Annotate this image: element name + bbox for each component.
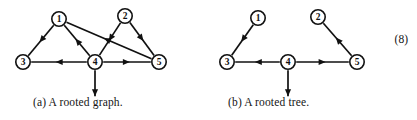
edge-4-to-5	[103, 59, 151, 65]
edge-4-to-5	[296, 59, 349, 65]
node-label-3: 3	[21, 57, 26, 67]
node-5[interactable]: 5	[152, 55, 166, 69]
edge-4-to-5-arrowhead	[123, 59, 130, 65]
node-label-3: 3	[225, 57, 230, 67]
node-3[interactable]: 3	[220, 55, 234, 69]
panel-a-rooted-graph: 12345	[16, 9, 166, 96]
node-3[interactable]: 3	[16, 55, 30, 69]
node-4[interactable]: 4	[281, 55, 295, 69]
edge-4-to-3	[235, 59, 280, 65]
caption-panel-a: (a) A rooted graph.	[33, 96, 123, 108]
edge-4-to-3	[31, 59, 87, 65]
node-2[interactable]: 2	[118, 9, 132, 23]
root-marker-node-4	[285, 70, 291, 96]
node-label-2: 2	[123, 11, 128, 21]
node-label-4: 4	[286, 57, 291, 67]
node-label-1: 1	[256, 13, 261, 23]
figure-container: 12345 12345 (a) A rooted graph. (b) A ro…	[0, 0, 417, 120]
node-2[interactable]: 2	[311, 10, 325, 24]
node-label-4: 4	[93, 57, 98, 67]
panel-b-rooted-tree: 12345	[220, 10, 364, 96]
edge-2-to-4	[99, 23, 120, 55]
node-1[interactable]: 1	[52, 12, 66, 26]
edge-5-to-2	[323, 23, 351, 56]
edge-1-to-3-arrowhead	[241, 34, 248, 42]
equation-number: (8)	[395, 33, 408, 45]
node-label-5: 5	[355, 57, 360, 67]
edge-4-to-3-arrowhead	[56, 59, 63, 65]
root-marker-node-4	[92, 70, 98, 96]
caption-panel-b: (b) A rooted tree.	[228, 96, 309, 108]
node-5[interactable]: 5	[350, 55, 364, 69]
node-1[interactable]: 1	[251, 11, 265, 25]
node-4[interactable]: 4	[88, 55, 102, 69]
edge-1-to-3	[28, 25, 53, 55]
edge-1-to-3	[232, 25, 254, 56]
node-label-5: 5	[157, 57, 162, 67]
edge-4-to-5-arrowhead	[319, 59, 326, 65]
edge-4-to-3-arrowhead	[255, 59, 262, 65]
node-label-2: 2	[316, 12, 321, 22]
node-label-1: 1	[57, 14, 62, 24]
